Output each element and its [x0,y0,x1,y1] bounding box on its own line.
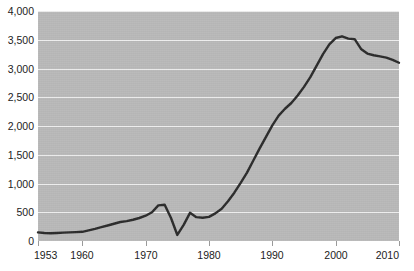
series-1-line [38,36,399,235]
series-line-group [0,0,414,271]
line-chart: 05001,0001,5002,0002,5003,0003,5004,000 … [0,0,414,271]
